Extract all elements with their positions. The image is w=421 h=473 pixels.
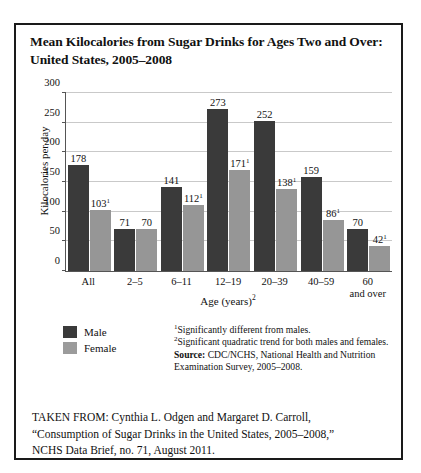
x-axis-tick-label-line: 12–19 [205, 276, 252, 288]
y-axis-tick-label: 250 [44, 106, 60, 117]
bar-male: 159 [301, 177, 322, 271]
bar-value-superscript: 1 [383, 233, 387, 241]
bar-value-label: 861 [326, 208, 340, 219]
legend-label-female: Female [84, 342, 116, 354]
bar-female: 1381 [276, 189, 297, 271]
y-axis-tick-label: 100 [44, 195, 60, 206]
bar-value-label: 70 [352, 217, 363, 228]
bar-value-label: 421 [373, 234, 387, 245]
bar-value-superscript: 1 [293, 176, 297, 184]
bar-value-label: 1031 [91, 198, 110, 209]
citation-line-2: “Consumption of Sugar Drinks in the Unit… [32, 426, 394, 443]
source-label: Source: [174, 349, 205, 360]
bar-male: 141 [161, 187, 182, 271]
bar-group: 2521381 [254, 93, 297, 271]
bar-female: 1711 [229, 170, 250, 271]
x-axis-tick-label-line: 40–59 [298, 276, 345, 288]
y-axis-tick-label: 200 [44, 136, 60, 147]
bar-male: 273 [207, 109, 228, 271]
source-note: Source: CDC/NCHS, National Health and Nu… [174, 349, 406, 374]
chart-footnotes: 1Significantly different from males. 2Si… [174, 324, 406, 374]
bar-female: 861 [323, 220, 344, 271]
bar-value-superscript: 1 [246, 156, 250, 164]
x-axis-tick-label-line: 20–39 [251, 276, 298, 288]
citation-line-3: NCHS Data Brief, no. 71, August 2011. [32, 442, 394, 459]
bar-value-label: 1121 [184, 193, 203, 204]
bar-group: 7170 [114, 93, 157, 271]
bar-series-layer: 1781031717014111212731711252138115986170… [66, 93, 392, 271]
x-axis-tick-label-line: 60 [344, 276, 391, 288]
x-axis-title-text: Age (years) [200, 295, 252, 307]
citation-block: TAKEN FROM: Cynthia L. Odgen and Margare… [32, 409, 394, 459]
bar-value-label: 273 [210, 97, 226, 108]
legend-item-male: Male [63, 326, 116, 338]
bar-male: 71 [114, 229, 135, 271]
bar-value-superscript: 1 [106, 196, 110, 204]
y-axis-tick-label: 150 [44, 166, 60, 177]
footnote-1: 1Significantly different from males. [174, 324, 406, 336]
bar-value-label: 252 [257, 109, 273, 120]
bar-group: 70421 [347, 93, 390, 271]
bar-male: 252 [254, 121, 275, 271]
bar-value-label: 71 [120, 217, 131, 228]
figure-frame: Mean Kilocalories from Sugar Drinks for … [14, 23, 403, 460]
legend-label-male: Male [84, 326, 107, 338]
bar-value-label: 178 [70, 153, 86, 164]
bar-female: 1121 [183, 205, 204, 271]
source-text: CDC/NCHS, National Health and Nutrition … [174, 349, 375, 372]
bar-group: 159861 [301, 93, 344, 271]
x-axis-title: Age (years)2 [65, 295, 391, 307]
bar-value-superscript: 1 [337, 206, 341, 214]
citation-line-1: TAKEN FROM: Cynthia L. Odgen and Margare… [32, 409, 394, 426]
plot-area: 050100150200250300 178103171701411121273… [65, 93, 392, 272]
bar-male: 70 [347, 229, 368, 271]
footnote-2-text: Significant quadratic trend for both mal… [178, 336, 389, 347]
chart-container: Kilocalories per day 050100150200250300 … [16, 87, 401, 322]
y-axis-tick-label: 50 [50, 225, 61, 236]
legend-item-female: Female [63, 342, 116, 354]
bar-value-label: 70 [142, 217, 153, 228]
bar-female: 421 [369, 246, 390, 271]
bar-female: 1031 [90, 210, 111, 271]
footnote-2: 2Significant quadratic trend for both ma… [174, 336, 406, 348]
bar-value-superscript: 1 [199, 191, 203, 199]
chart-legend: Male Female [63, 326, 116, 358]
legend-swatch-female-icon [63, 342, 77, 354]
footnote-1-text: Significantly different from males. [178, 324, 311, 335]
y-axis-tick-label: 300 [44, 77, 60, 88]
x-axis-title-superscript: 2 [252, 293, 256, 302]
x-axis-tick-label-line: 6–11 [158, 276, 205, 288]
x-axis-tick-label-line: All [65, 276, 112, 288]
bar-value-label: 159 [303, 165, 319, 176]
bar-value-label: 141 [164, 175, 180, 186]
bar-value-label: 1711 [230, 158, 249, 169]
bar-value-label: 1381 [277, 177, 296, 188]
legend-swatch-male-icon [63, 326, 77, 338]
bar-group: 2731711 [207, 93, 250, 271]
bar-group: 1411121 [161, 93, 204, 271]
bar-female: 70 [136, 229, 157, 271]
bar-male: 178 [68, 165, 89, 271]
x-axis-tick-label-line: 2–5 [112, 276, 159, 288]
bar-group: 1781031 [68, 93, 111, 271]
page-title: Mean Kilocalories from Sugar Drinks for … [30, 33, 390, 69]
y-axis-tick-label: 0 [55, 255, 60, 266]
